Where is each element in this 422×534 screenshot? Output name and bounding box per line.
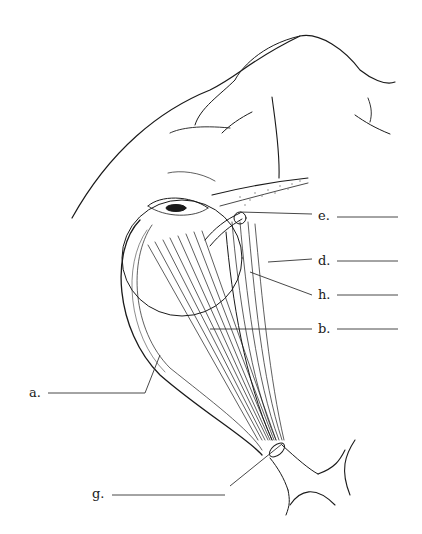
- pupil: [166, 205, 186, 212]
- label-d: d.: [318, 254, 330, 268]
- leader-g: [230, 444, 282, 486]
- leader-e: [240, 212, 312, 214]
- label-h: h.: [318, 288, 331, 302]
- eye-muscles-illustration: [0, 0, 422, 534]
- leader-h: [250, 272, 312, 295]
- optic-chiasm: [318, 450, 345, 474]
- leader-d: [268, 259, 312, 262]
- anatomy-diagram: e. d. h. b. a. g.: [0, 0, 422, 534]
- label-g: g.: [92, 487, 104, 501]
- label-a: a.: [29, 386, 41, 400]
- label-b: b.: [318, 322, 330, 336]
- optic-nerve: [282, 445, 318, 474]
- skull-outline: [72, 35, 395, 218]
- eyeball: [122, 200, 242, 316]
- label-e: e.: [318, 209, 330, 223]
- common-tendinous-ring: [267, 440, 287, 459]
